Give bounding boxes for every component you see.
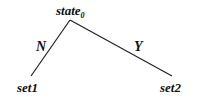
root-node-text: state [56,3,81,18]
leaf-node-set2: set2 [160,81,181,94]
root-node-label: state0 [56,4,85,20]
edge-label-y: Y [134,40,143,54]
root-node-subscript: 0 [81,11,85,20]
edge-label-n: N [36,40,46,54]
leaf-node-set1: set1 [17,81,38,94]
edge-line-y [70,20,172,76]
decision-tree-diagram: state0 N Y set1 set2 [0,0,197,97]
